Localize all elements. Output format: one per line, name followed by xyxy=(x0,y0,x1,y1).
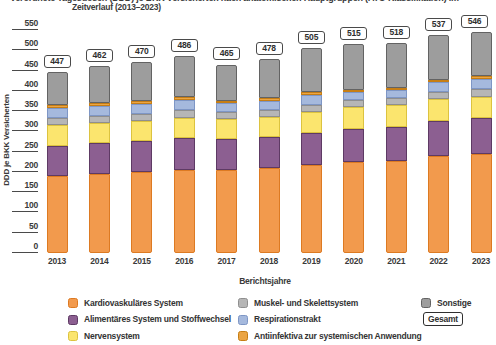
bar-segment-sonstige xyxy=(301,48,322,92)
bar-segment-kardiovaskulaeres-system xyxy=(131,172,152,253)
bar-segment-alimentaeres-system-und-stoffwechsel xyxy=(47,146,68,176)
bar-segment-alimentaeres-system-und-stoffwechsel xyxy=(471,118,492,154)
bar-segment-respirationstrakt xyxy=(47,108,68,118)
bar-segment-kardiovaskulaeres-system xyxy=(216,170,237,253)
x-tick-2016: 2016 xyxy=(168,256,200,266)
bar-segment-respirationstrakt xyxy=(174,100,195,110)
bar-segment-kardiovaskulaeres-system xyxy=(47,176,68,253)
bar-segment-kardiovaskulaeres-system xyxy=(89,174,110,253)
y-tick-350: 350 xyxy=(12,99,38,111)
bar-segment-respirationstrakt xyxy=(131,104,152,114)
bar-segment-respirationstrakt xyxy=(471,79,492,90)
bar-segment-alimentaeres-system-und-stoffwechsel xyxy=(428,121,449,156)
bar-segment-muskel-und-skelettsystem xyxy=(301,105,322,112)
bar-2014 xyxy=(89,66,110,253)
bar-segment-muskel-und-skelettsystem xyxy=(471,89,492,96)
x-tick-2022: 2022 xyxy=(423,256,455,266)
bar-segment-nervensystem xyxy=(471,97,492,119)
bar-segment-muskel-und-skelettsystem xyxy=(386,98,407,105)
y-tick-0: 0 xyxy=(12,241,38,253)
bar-segment-alimentaeres-system-und-stoffwechsel xyxy=(301,133,322,165)
bar-segment-nervensystem xyxy=(216,119,237,139)
bar-segment-nervensystem xyxy=(174,118,195,139)
bar-segment-alimentaeres-system-und-stoffwechsel xyxy=(174,138,195,170)
bar-segment-sonstige xyxy=(386,43,407,88)
legend-label-nervensystem: Nervensystem xyxy=(84,331,140,342)
bar-segment-nervensystem xyxy=(386,105,407,126)
bar-segment-kardiovaskulaeres-system xyxy=(428,156,449,253)
bar-2023 xyxy=(471,32,492,253)
total-label-2023: 546 xyxy=(461,15,488,28)
bar-segment-respirationstrakt xyxy=(343,92,364,100)
total-label-2018: 478 xyxy=(256,42,283,55)
legend-item-kardiovaskulaeres-system: Kardiovaskuläres System xyxy=(68,298,183,309)
bar-segment-respirationstrakt xyxy=(386,90,407,97)
legend-label-respirationstrakt: Respirationstrakt xyxy=(254,314,321,325)
y-tick-450: 450 xyxy=(12,59,38,71)
bar-segment-nervensystem xyxy=(89,123,110,143)
bar-segment-sonstige xyxy=(428,35,449,79)
x-tick-2017: 2017 xyxy=(211,256,243,266)
bar-2015 xyxy=(131,62,152,253)
bar-segment-kardiovaskulaeres-system xyxy=(386,161,407,253)
total-label-2015: 470 xyxy=(128,45,155,58)
y-tick-300: 300 xyxy=(12,119,38,131)
x-tick-2020: 2020 xyxy=(338,256,370,266)
legend-swatch-alimentaeres-system-und-stoffwechsel xyxy=(68,315,78,325)
legend-label-sonstige: Sonstige xyxy=(437,298,471,309)
bar-2018 xyxy=(259,59,280,253)
bar-segment-muskel-und-skelettsystem xyxy=(131,114,152,121)
bar-segment-sonstige xyxy=(259,59,280,98)
bar-segment-kardiovaskulaeres-system xyxy=(471,154,492,253)
gesamt-legend-box: Gesamt xyxy=(423,312,463,326)
legend-swatch-antiinfektiva-zur-systemischen-anwendung xyxy=(238,331,248,341)
bar-segment-nervensystem xyxy=(47,125,68,145)
y-axis-title: DDD je BKK Versicherten xyxy=(2,94,11,185)
bar-2013 xyxy=(47,72,68,253)
total-label-2014: 462 xyxy=(86,49,113,62)
bar-segment-sonstige xyxy=(216,65,237,101)
bar-segment-sonstige xyxy=(89,66,110,103)
bar-segment-sonstige xyxy=(174,56,195,97)
bar-segment-sonstige xyxy=(471,32,492,76)
legend-item-nervensystem: Nervensystem xyxy=(68,331,140,342)
legend-swatch-respirationstrakt xyxy=(238,315,248,325)
x-axis-title: Berichtsjahre xyxy=(160,276,370,286)
y-tick-200: 200 xyxy=(12,160,38,172)
bar-segment-alimentaeres-system-und-stoffwechsel xyxy=(89,143,110,174)
legend-item-antiinfektiva-zur-systemischen-anwendung: Antiinfektiva zur systemischen Anwendung xyxy=(238,331,421,342)
x-tick-2013: 2013 xyxy=(41,256,73,266)
bar-segment-muskel-und-skelettsystem xyxy=(428,92,449,99)
bar-segment-alimentaeres-system-und-stoffwechsel xyxy=(259,137,280,168)
total-label-2017: 465 xyxy=(213,47,240,60)
bar-2021 xyxy=(386,43,407,253)
total-label-2016: 486 xyxy=(171,39,198,52)
y-tick-400: 400 xyxy=(12,79,38,91)
bar-segment-muskel-und-skelettsystem xyxy=(174,110,195,117)
legend-swatch-sonstige xyxy=(421,298,431,308)
y-tick-500: 500 xyxy=(12,38,38,50)
legend-swatch-kardiovaskulaeres-system xyxy=(68,298,78,308)
x-tick-2014: 2014 xyxy=(83,256,115,266)
total-label-2019: 505 xyxy=(298,31,325,44)
bar-segment-respirationstrakt xyxy=(259,101,280,110)
legend-label-antiinfektiva-zur-systemischen-anwendung: Antiinfektiva zur systemischen Anwendung xyxy=(254,331,421,342)
y-tick-550: 550 xyxy=(12,18,38,30)
legend-label-kardiovaskulaeres-system: Kardiovaskuläres System xyxy=(84,298,183,309)
bar-segment-alimentaeres-system-und-stoffwechsel xyxy=(131,141,152,172)
bar-segment-respirationstrakt xyxy=(89,106,110,116)
x-tick-2019: 2019 xyxy=(295,256,327,266)
bar-segment-sonstige xyxy=(343,44,364,90)
bar-segment-muskel-und-skelettsystem xyxy=(259,110,280,117)
bar-segment-sonstige xyxy=(47,72,68,105)
chart-title-line2: Zeitverlauf (2013–2023) xyxy=(72,2,161,12)
bar-segment-nervensystem xyxy=(301,112,322,133)
bar-segment-respirationstrakt xyxy=(428,82,449,92)
bar-segment-nervensystem xyxy=(343,107,364,128)
x-tick-2021: 2021 xyxy=(380,256,412,266)
x-tick-2015: 2015 xyxy=(126,256,158,266)
y-tick-50: 50 xyxy=(12,221,38,233)
y-tick-250: 250 xyxy=(12,140,38,152)
bar-segment-muskel-und-skelettsystem xyxy=(343,100,364,107)
